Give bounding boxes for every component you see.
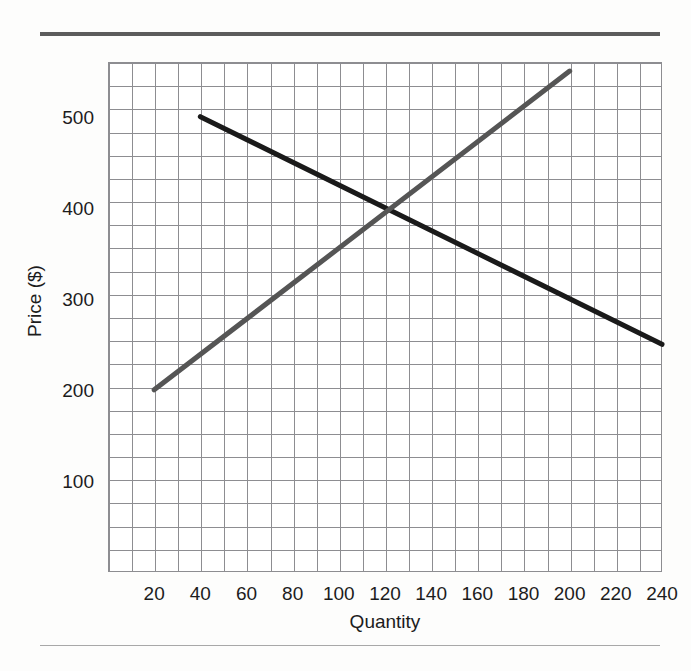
series-layer — [108, 62, 662, 572]
y-tick-label: 500 — [24, 108, 94, 127]
y-tick-label: 100 — [24, 472, 94, 491]
supply-line — [154, 71, 569, 390]
y-tick-label: 400 — [24, 199, 94, 218]
supply-demand-chart: Price ($) 100200300400500 20406080100120… — [0, 0, 691, 671]
demand-line — [200, 117, 662, 345]
x-axis-title: Quantity — [108, 611, 662, 633]
y-tick-label: 200 — [24, 381, 94, 400]
bottom-divider-rule — [40, 645, 660, 646]
y-tick-label: 300 — [24, 290, 94, 309]
x-tick-label: 240 — [632, 584, 691, 603]
plot-area — [108, 62, 662, 572]
